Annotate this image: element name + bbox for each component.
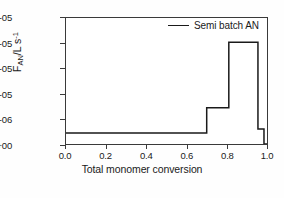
y-axis-label-base: F: [11, 66, 23, 72]
y-tick-label: 0.0E+00: [0, 140, 12, 151]
x-tick-label: 0.4: [140, 150, 153, 161]
x-tick-mark: [65, 145, 66, 149]
legend: Semi batch AN: [168, 20, 259, 31]
legend-label: Semi batch AN: [194, 20, 259, 31]
x-tick-mark: [146, 145, 147, 149]
x-tick-label: 1.0: [261, 150, 274, 161]
x-tick-label: 0.2: [99, 150, 112, 161]
y-axis-label-subscript: AN: [16, 55, 25, 65]
y-axis-label-middle: /L s: [11, 39, 23, 56]
data-series-semi-batch-an: [66, 18, 267, 144]
y-tick-label: 5.0E-06: [0, 114, 12, 125]
x-tick-label: 0.8: [221, 150, 234, 161]
chart-figure: 0.0E+00 5.0E-06 1.0E-05 1.5E-05 2.0E-05 …: [0, 0, 284, 198]
x-axis-label: Total monomer conversion: [0, 163, 284, 175]
x-tick-mark: [187, 145, 188, 149]
x-tick-mark: [106, 145, 107, 149]
x-tick-label: 0.0: [59, 150, 72, 161]
plot-area: [65, 17, 268, 145]
y-axis-label: FAN/L s-1: [11, 0, 27, 112]
x-tick-label: 0.6: [180, 150, 193, 161]
y-axis-label-superscript: -1: [11, 32, 20, 39]
x-tick-mark: [267, 145, 268, 149]
x-tick-mark: [227, 145, 228, 149]
legend-line-icon: [168, 25, 189, 27]
series-line: [66, 42, 267, 144]
